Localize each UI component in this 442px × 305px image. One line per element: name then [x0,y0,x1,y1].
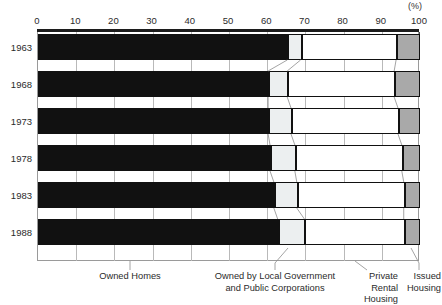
bar-segment-issued-housing-1983 [405,182,420,208]
axis-tick-label-50: 50 [223,15,234,26]
bar-segment-public-corporations-1973 [269,108,292,134]
legend-item-private-rental: Private Rental Housing [340,271,398,305]
legend-item-issued-housing: Issued Housing [399,271,441,294]
bar-segment-owned-homes-1983 [38,182,275,208]
bar-row-1988 [38,219,420,245]
bar-segment-issued-housing-1973 [399,108,420,134]
bar-row-1983 [38,182,420,208]
legend-label-issued-line1: Issued [399,271,441,283]
bar-segment-owned-homes-1973 [38,108,269,134]
legend-label-public-line1: Owned by Local Government [204,271,346,283]
year-label-1978: 1978 [2,153,32,164]
axis-tick-label-60: 60 [261,15,272,26]
bar-row-1968 [38,71,420,97]
bar-segment-issued-housing-1978 [403,145,420,171]
bar-segment-issued-housing-1968 [395,71,420,97]
bar-segment-public-corporations-1978 [271,145,296,171]
bar-segment-owned-homes-1978 [38,145,271,171]
bar-segment-public-corporations-1968 [269,71,288,97]
axis-tick-label-100: 100 [411,15,427,26]
bar-segment-private-rental-1963 [302,34,398,60]
plot-area [37,32,419,261]
axis-tick-label-0: 0 [34,15,39,26]
bar-segment-private-rental-1983 [298,182,405,208]
bar-segment-public-corporations-1983 [275,182,298,208]
axis-tick-label-30: 30 [146,15,157,26]
unit-label: (%) [408,1,422,11]
bar-segment-owned-homes-1968 [38,71,269,97]
bar-row-1973 [38,108,420,134]
bar-row-1963 [38,34,420,60]
axis-tick-label-40: 40 [185,15,196,26]
year-label-1963: 1963 [2,42,32,53]
year-label-1988: 1988 [2,227,32,238]
legend-item-public-corporations: Owned by Local Government and Public Cor… [204,271,346,294]
axis-tick-label-80: 80 [337,15,348,26]
bar-segment-private-rental-1973 [292,108,399,134]
axis-tick-label-10: 10 [70,15,81,26]
bar-segment-private-rental-1968 [288,71,395,97]
bar-segment-private-rental-1988 [305,219,404,245]
bar-segment-issued-housing-1963 [397,34,420,60]
axis-tick-label-90: 90 [376,15,387,26]
legend-label-private-line1: Private Rental [340,271,398,294]
bar-segment-public-corporations-1988 [279,219,306,245]
axis-tick-label-20: 20 [108,15,119,26]
legend-label-private-line2: Housing [340,294,398,305]
bar-segment-owned-homes-1988 [38,219,279,245]
stacked-bar-chart: (%) 0102030405060708090100 1963196819731… [0,0,442,305]
legend: Owned Homes Owned by Local Government an… [0,268,442,304]
legend-label-public-line2: and Public Corporations [204,283,346,295]
legend-label-issued-line2: Housing [399,283,441,295]
year-label-1973: 1973 [2,116,32,127]
axis-tick-label-70: 70 [299,15,310,26]
bar-segment-issued-housing-1988 [405,219,420,245]
year-label-1968: 1968 [2,79,32,90]
year-label-1983: 1983 [2,190,32,201]
legend-label-owned-homes: Owned Homes [99,271,161,281]
bar-segment-owned-homes-1963 [38,34,288,60]
legend-item-owned-homes: Owned Homes [60,271,200,283]
bar-segment-public-corporations-1963 [288,34,301,60]
bar-row-1978 [38,145,420,171]
bar-segment-private-rental-1978 [296,145,403,171]
